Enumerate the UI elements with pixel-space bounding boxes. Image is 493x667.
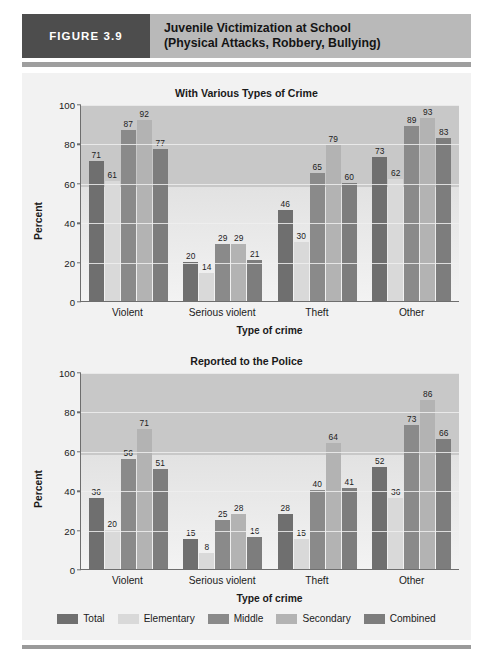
bar-group: 2014292921 [176, 105, 271, 301]
footer-divider [22, 645, 471, 649]
figure-body-panel: With Various Types of Crime Percent 7161… [22, 73, 471, 640]
bar-combined: 66 [436, 439, 451, 569]
bar-combined: 41 [342, 488, 357, 569]
gridline [81, 263, 459, 264]
bar-secondary: 92 [137, 120, 152, 301]
bar-value-label: 41 [345, 478, 354, 487]
bar-fill [310, 173, 325, 301]
bar-value-label: 46 [281, 200, 290, 209]
bar-total: 36 [89, 498, 104, 569]
bar-secondary: 28 [231, 514, 246, 569]
bar-value-label: 61 [108, 171, 117, 180]
bar-fill [199, 553, 214, 569]
legend-item: Total [57, 613, 104, 624]
figure-3-9: FIGURE 3.9 Juvenile Victimization at Sch… [0, 0, 493, 667]
gridline [81, 412, 459, 413]
bar-fill [372, 157, 387, 301]
bar-middle: 40 [310, 490, 325, 569]
bar-fill [278, 514, 293, 569]
bar-middle: 89 [404, 126, 419, 301]
y-axis-label-bottom: Percent [33, 470, 44, 508]
bar-value-label: 14 [202, 263, 211, 272]
x-axis-tick-label: Theft [270, 307, 365, 318]
bar-value-label: 89 [407, 116, 416, 125]
bar-value-label: 40 [313, 480, 322, 489]
y-axis-tick-mark [77, 301, 81, 302]
y-axis-tick-mark [77, 490, 81, 491]
legend-label: Total [83, 613, 104, 624]
legend-swatch [276, 614, 297, 624]
bar-value-label: 56 [124, 449, 133, 458]
bar-group: 3620567151 [81, 373, 176, 569]
bar-value-label: 64 [329, 433, 338, 442]
bar-value-label: 29 [234, 234, 243, 243]
legend-label: Combined [390, 613, 436, 624]
y-axis-tick-mark [77, 262, 81, 263]
bar-middle: 65 [310, 173, 325, 301]
bar-value-label: 36 [391, 488, 400, 497]
bar-middle: 56 [121, 459, 136, 569]
bar-value-label: 8 [204, 543, 209, 552]
bar-value-label: 25 [218, 510, 227, 519]
chart-title-bottom: Reported to the Police [22, 355, 471, 367]
bar-elementary: 36 [388, 498, 403, 569]
bar-value-label: 66 [439, 429, 448, 438]
bar-value-label: 92 [140, 110, 149, 119]
gridline [81, 223, 459, 224]
bar-fill [153, 469, 168, 569]
legend-swatch [208, 614, 229, 624]
bar-total: 20 [183, 262, 198, 301]
header-divider [22, 62, 471, 67]
bar-secondary: 71 [137, 429, 152, 569]
x-axis-ticks-top: ViolentSerious violentTheftOther [80, 307, 459, 318]
bar-fill [215, 520, 230, 569]
legend-label: Secondary [302, 613, 350, 624]
bar-fill [153, 149, 168, 301]
figure-title-line-1: Juvenile Victimization at School [164, 21, 471, 36]
x-axis-ticks-bottom: ViolentSerious violentTheftOther [80, 575, 459, 586]
x-axis-label-bottom: Type of crime [80, 593, 459, 604]
legend-item: Combined [364, 613, 436, 624]
legend-item: Elementary [118, 613, 195, 624]
bar-value-label: 83 [439, 128, 448, 137]
bar-middle: 25 [215, 520, 230, 569]
bar-value-label: 79 [329, 135, 338, 144]
bar-fill [247, 260, 262, 301]
y-axis-tick-mark [77, 530, 81, 531]
bar-fill [420, 400, 435, 569]
bar-secondary: 64 [326, 443, 341, 569]
y-axis-tick-mark [77, 412, 81, 413]
bar-fill [342, 183, 357, 301]
figure-number-text: FIGURE 3.9 [49, 30, 123, 42]
x-axis-tick-label: Violent [80, 575, 175, 586]
legend-label: Middle [234, 613, 264, 624]
bar-fill [310, 490, 325, 569]
bar-elementary: 30 [294, 242, 309, 301]
gridline [81, 373, 459, 374]
bar-fill [294, 242, 309, 301]
bar-value-label: 73 [375, 147, 384, 156]
bar-fill [215, 244, 230, 301]
figure-title-line-2: (Physical Attacks, Robbery, Bullying) [164, 36, 471, 51]
bar-combined: 51 [153, 469, 168, 569]
bar-fill [121, 130, 136, 301]
y-axis-tick-mark [77, 372, 81, 373]
bar-elementary: 8 [199, 553, 214, 569]
bar-value-label: 21 [250, 250, 259, 259]
bar-value-label: 51 [156, 459, 165, 468]
bar-value-label: 28 [281, 504, 290, 513]
x-axis-tick-label: Serious violent [175, 307, 270, 318]
figure-number-badge: FIGURE 3.9 [22, 14, 150, 58]
legend-swatch [118, 614, 139, 624]
x-axis-tick-label: Other [364, 575, 459, 586]
bar-group: 158252816 [176, 373, 271, 569]
bar-value-label: 29 [218, 234, 227, 243]
bar-fill [183, 539, 198, 569]
y-axis-tick-mark [77, 451, 81, 452]
bar-fill [121, 459, 136, 569]
bar-fill [137, 120, 152, 301]
bar-groups-top: 7161879277201429292146306579607362899383 [81, 105, 459, 301]
bar-combined: 60 [342, 183, 357, 301]
bar-value-label: 36 [92, 488, 101, 497]
bar-fill [105, 530, 120, 569]
